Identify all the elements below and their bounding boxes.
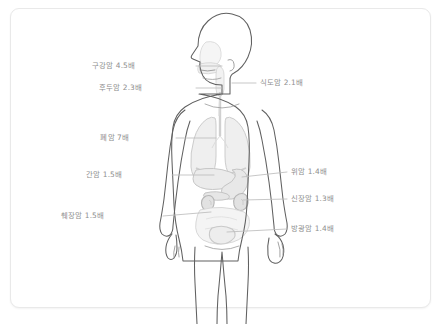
- label-liver-cancer: 간암 1.5배: [72, 171, 122, 178]
- organs-group: [191, 42, 250, 244]
- label-bladder-cancer: 방광암 1.4배: [291, 225, 334, 232]
- label-laryngeal-cancer: 후두암 2.3배: [87, 84, 142, 91]
- body-outline-group: [160, 13, 288, 324]
- kidney-right-organ: [234, 194, 249, 211]
- hand-left-outline: [166, 234, 177, 260]
- diagram-page: 구강암 4.5배 후두암 2.3배 식도암 2.1배 폐암 7배 간암 1.5배…: [0, 0, 441, 324]
- label-esophageal-cancer: 식도암 2.1배: [260, 79, 303, 86]
- label-lung-cancer: 폐암 7배: [84, 134, 129, 141]
- arm-right-outline: [257, 110, 287, 236]
- bladder-organ: [209, 226, 235, 244]
- label-oral-cancer: 구강암 4.5배: [80, 62, 135, 69]
- leader-line-kidney-cancer: [243, 199, 287, 200]
- label-kidney-cancer: 신장암 1.3배: [291, 195, 334, 202]
- label-pancreatic-cancer: 췌장암 1.5배: [48, 212, 104, 219]
- legs-outline: [195, 247, 249, 324]
- chest-contour: [205, 104, 239, 108]
- human-body-figure: [0, 0, 441, 324]
- hand-right-outline: [268, 234, 284, 263]
- label-stomach-cancer: 위암 1.4배: [291, 168, 327, 175]
- crotch-outline: [205, 246, 239, 250]
- ear-outline: [228, 60, 234, 72]
